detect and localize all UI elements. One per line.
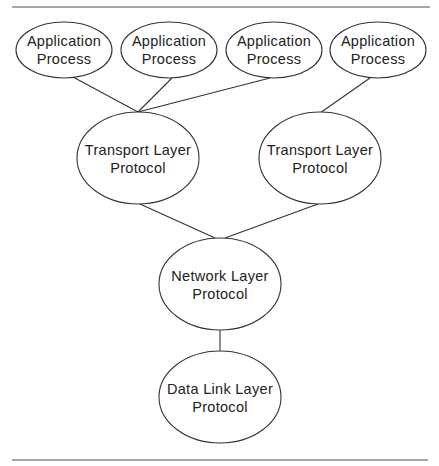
node-transport2: Transport Layer Protocol [259,112,381,204]
node-label-line2: Process [142,51,196,67]
edge-app3-transport1 [138,78,270,112]
node-label-line1: Application [341,33,415,49]
edge-transport1-network [140,204,215,238]
protocol-diagram: Application Process Application Process … [0,0,439,466]
node-transport1: Transport Layer Protocol [77,112,199,204]
node-ellipse [259,112,381,204]
node-label-line2: Protocol [110,160,166,176]
node-label-line2: Protocol [192,399,248,415]
node-label-line1: Network Layer [171,268,268,284]
edge-app4-transport2 [320,78,370,113]
edge-transport2-network [225,204,318,238]
node-label-line1: Application [237,33,311,49]
node-label-line2: Protocol [192,286,248,302]
node-label-line1: Data Link Layer [167,381,273,397]
node-label-line2: Process [37,51,91,67]
node-label-line1: Transport Layer [267,142,373,158]
node-ellipse [159,238,281,330]
node-app4: Application Process [330,22,426,78]
node-label-line1: Application [132,33,206,49]
node-app2: Application Process [121,22,217,78]
node-ellipse [121,22,217,78]
node-app3: Application Process [226,22,322,78]
node-ellipse [159,351,281,443]
node-ellipse [16,22,112,78]
node-label-line1: Transport Layer [85,142,191,158]
node-ellipse [226,22,322,78]
node-label-line1: Application [27,33,101,49]
node-label-line2: Process [351,51,405,67]
edge-app1-transport1 [73,77,138,112]
node-label-line2: Protocol [292,160,348,176]
node-ellipse [77,112,199,204]
node-ellipse [330,22,426,78]
node-label-line2: Process [247,51,301,67]
edge-app2-transport1 [138,78,172,112]
node-datalink: Data Link Layer Protocol [159,351,281,443]
node-network: Network Layer Protocol [159,238,281,330]
node-app1: Application Process [16,22,112,78]
